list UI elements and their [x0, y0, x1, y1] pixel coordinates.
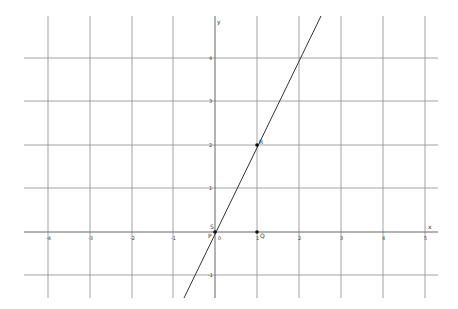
x-axis-label: x [428, 223, 432, 230]
svg-text:4: 4 [209, 55, 212, 61]
point-q[interactable] [255, 230, 259, 234]
svg-text:2: 2 [298, 235, 301, 241]
svg-text:1: 1 [209, 185, 212, 191]
point-origin[interactable] [213, 230, 217, 234]
svg-text:-1: -1 [208, 272, 213, 278]
horizontal-grid-lines [24, 58, 438, 275]
svg-text:-2: -2 [130, 235, 135, 241]
y-axis-label: y [217, 18, 221, 26]
svg-text:2: 2 [209, 142, 212, 148]
point-label-p: P [208, 232, 212, 239]
svg-text:-3: -3 [88, 235, 93, 241]
svg-text:1: 1 [256, 235, 259, 241]
svg-text:3: 3 [340, 235, 343, 241]
svg-text:3: 3 [209, 98, 212, 104]
svg-text:-4: -4 [46, 235, 51, 241]
svg-text:4: 4 [382, 235, 385, 241]
coordinate-plane: -4 -3 -2 -1 0 1 2 3 4 5 4 3 2 1 -1 x y S… [0, 0, 458, 309]
svg-text:5: 5 [424, 235, 427, 241]
x-tick-labels: -4 -3 -2 -1 0 1 2 3 4 5 [46, 235, 427, 241]
svg-text:-1: -1 [171, 235, 176, 241]
point-label-q: Q [260, 232, 265, 239]
svg-text:0: 0 [218, 235, 221, 241]
point-label-s: S [210, 223, 214, 230]
point-label-r: R [259, 138, 263, 145]
